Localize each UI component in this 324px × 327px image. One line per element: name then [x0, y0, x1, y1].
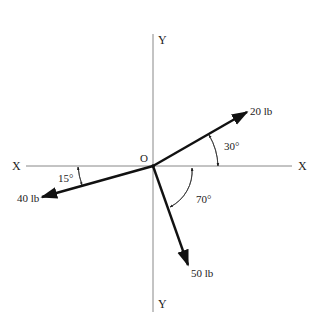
force-label-20lb: 20 lb: [250, 105, 273, 117]
angle-label-70: 70°: [196, 193, 211, 205]
angle-arc-30-start-tick: [209, 135, 218, 166]
x-axis-left-label: X: [12, 159, 21, 173]
angle-arc-30: [209, 135, 218, 166]
angle-label-15: 15°: [58, 172, 73, 184]
force-vector-50lb: [153, 166, 188, 265]
x-axis-right-label: X: [298, 159, 307, 173]
origin-label: O: [140, 152, 148, 164]
angle-arc-15-start: [78, 167, 82, 185]
force-vector-20lb: [153, 112, 247, 166]
angle-label-30: 30°: [224, 140, 239, 152]
force-label-50lb: 50 lb: [191, 267, 214, 279]
force-diagram: X X Y Y O 20 lb 40 lb 50 lb 30° 15° 70°: [0, 0, 324, 327]
angle-arc-70-start: [170, 168, 192, 207]
y-axis-top-label: Y: [158, 33, 167, 47]
y-axis-bottom-label: Y: [158, 297, 167, 311]
force-label-40lb: 40 lb: [17, 192, 40, 204]
